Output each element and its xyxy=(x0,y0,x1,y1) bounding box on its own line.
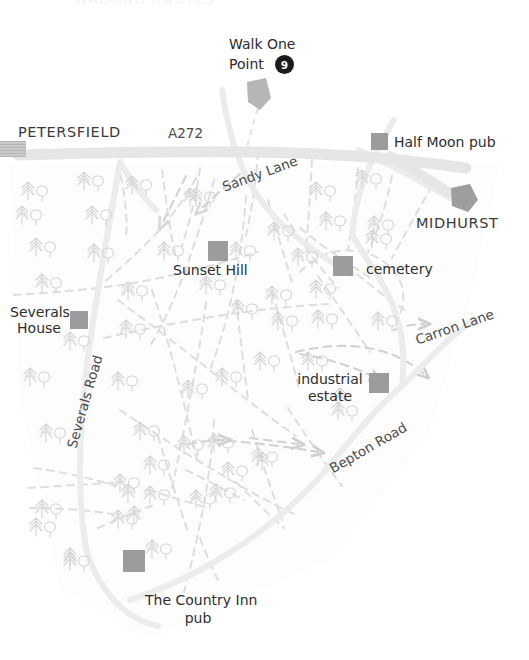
label-severals-house-line2: House xyxy=(10,320,68,336)
walk-one-point-marker[interactable] xyxy=(247,78,271,110)
cemetery-marker[interactable] xyxy=(333,256,353,276)
label-half-moon-pub: Half Moon pub xyxy=(394,134,496,150)
waypoint-label-line1: Walk One xyxy=(229,36,295,52)
waypoint-label-line2: Point xyxy=(229,56,264,72)
petersfield-town-marker[interactable] xyxy=(0,141,26,157)
label-petersfield: PETERSFIELD xyxy=(18,124,121,141)
label-country-inn-line1: The Country Inn xyxy=(145,592,251,608)
country-inn-marker[interactable] xyxy=(123,550,145,572)
label-sunset-hill: Sunset Hill xyxy=(173,262,248,278)
industrial-estate-marker[interactable] xyxy=(369,373,389,393)
label-cemetery: cemetery xyxy=(366,261,433,277)
sunset-hill-marker[interactable] xyxy=(208,241,228,261)
label-midhurst: MIDHURST xyxy=(416,215,498,232)
label-severals-house-line1: Severals xyxy=(10,304,68,320)
label-industrial-estate-line1: industrial xyxy=(296,371,364,387)
map-container: WALKING ROUTES xyxy=(0,0,529,660)
label-industrial-estate-line2: estate xyxy=(296,388,364,404)
severals-house-marker[interactable] xyxy=(70,311,88,329)
label-a272: A272 xyxy=(168,126,203,142)
label-country-inn-line2: pub xyxy=(145,610,251,626)
half-moon-pub-marker[interactable] xyxy=(371,133,388,150)
waypoint-number-badge[interactable]: 9 xyxy=(275,55,294,74)
